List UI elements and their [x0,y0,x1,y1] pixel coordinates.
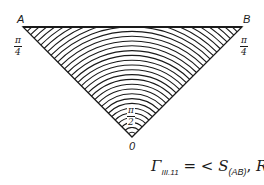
r-symbol: R [256,157,264,175]
gamma-symbol: Γ [151,157,161,175]
angle-a-numerator: π [14,36,22,47]
group-formula: ΓIII.11 = < S(AB), R0π/2 > [151,155,264,177]
angle-o-numerator: π [127,106,135,117]
angle-label-a: π 4 [14,36,22,57]
angle-label-b: π 4 [240,36,248,57]
angle-b-numerator: π [240,36,248,47]
angle-o-denominator: 2 [127,117,135,127]
vertex-label-a: A [17,14,24,25]
open-bracket: < [201,157,214,175]
s-symbol: S [218,157,228,175]
comma: , [246,157,251,175]
gamma-subscript: III.11 [161,168,178,177]
vertex-label-o: 0 [129,141,135,152]
equals-sign: = [183,157,196,175]
angle-label-o: π 2 [127,106,135,127]
vertex-label-b: B [243,14,250,25]
angle-a-denominator: 4 [14,47,22,57]
angle-b-denominator: 4 [240,47,248,57]
s-subscript: (AB) [228,167,246,177]
